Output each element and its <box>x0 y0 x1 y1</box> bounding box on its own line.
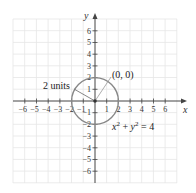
svg-text:−5: −5 <box>82 155 91 164</box>
svg-text:6: 6 <box>87 27 91 36</box>
svg-text:4: 4 <box>140 105 144 114</box>
y-axis-label: y <box>83 10 89 21</box>
equation-label: x2 + y2 = 4 <box>111 120 154 132</box>
svg-text:4: 4 <box>87 50 91 59</box>
svg-text:5: 5 <box>87 38 91 47</box>
center-point <box>93 99 97 103</box>
svg-text:−5: −5 <box>30 105 39 114</box>
svg-text:5: 5 <box>152 105 156 114</box>
svg-text:−1: −1 <box>82 108 91 117</box>
coordinate-plane: −6 −5 −4 −3 −2 −1 1 2 3 4 5 6 6 5 4 3 2 … <box>0 0 196 193</box>
x-axis-arrow-icon <box>181 99 187 104</box>
svg-text:6: 6 <box>163 105 167 114</box>
svg-text:−4: −4 <box>82 144 91 153</box>
axes <box>13 17 184 183</box>
svg-text:−3: −3 <box>82 132 91 141</box>
x-axis-label: x <box>182 104 188 115</box>
svg-text:1: 1 <box>105 105 109 114</box>
svg-text:−6: −6 <box>19 105 28 114</box>
y-axis-arrow-icon <box>93 13 98 19</box>
svg-text:3: 3 <box>128 105 132 114</box>
svg-text:1: 1 <box>87 85 91 94</box>
svg-text:−6: −6 <box>82 167 91 176</box>
svg-text:−4: −4 <box>42 105 51 114</box>
center-label: (0, 0) <box>112 69 134 81</box>
svg-text:3: 3 <box>87 62 91 71</box>
radius-label: 2 units <box>43 80 70 91</box>
radius-line <box>74 89 95 101</box>
svg-text:−3: −3 <box>54 105 63 114</box>
